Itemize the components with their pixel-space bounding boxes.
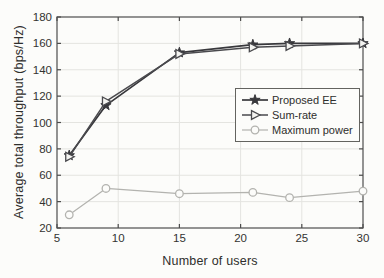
y-tick-label: 100 — [33, 117, 52, 129]
legend-item: Proposed EE — [241, 93, 353, 107]
x-tick-label: 20 — [234, 232, 247, 244]
circle-marker-icon — [249, 189, 257, 197]
triangle-right-marker-icon — [252, 111, 261, 120]
circle-marker-icon — [65, 211, 73, 219]
star-marker-icon — [250, 95, 260, 105]
x-tick-label: 10 — [112, 232, 125, 244]
y-tick-label: 60 — [39, 169, 52, 181]
x-tick-label: 30 — [357, 232, 370, 244]
x-tick-label: 15 — [173, 232, 186, 244]
y-tick-label: 40 — [39, 196, 52, 208]
legend-item: Maximum power — [241, 123, 353, 137]
legend-marker-sample — [241, 123, 269, 137]
circle-marker-icon — [176, 190, 184, 198]
y-tick-label: 140 — [33, 64, 52, 76]
legend-marker-sample — [241, 108, 269, 122]
y-tick-label: 120 — [33, 90, 52, 102]
x-tick-label: 25 — [295, 232, 308, 244]
throughput-chart: 5101520253020406080100120140160180 Avera… — [0, 0, 384, 278]
circle-marker-icon — [102, 185, 110, 193]
y-tick-label: 160 — [33, 37, 52, 49]
x-tick-label: 5 — [54, 232, 60, 244]
circle-marker-icon — [251, 126, 259, 134]
circle-marker-icon — [286, 194, 294, 202]
legend-item-label: Proposed EE — [272, 93, 337, 107]
y-axis-label: Average total throughput (bps/Hz) — [12, 7, 26, 237]
y-tick-label: 80 — [39, 143, 52, 155]
legend-item-label: Maximum power — [272, 123, 353, 137]
y-tick-label: 20 — [39, 222, 52, 234]
legend-marker-sample — [241, 93, 269, 107]
legend: Proposed EESum-rateMaximum power — [235, 88, 360, 142]
x-axis-label: Number of users — [57, 254, 363, 268]
legend-item: Sum-rate — [241, 108, 353, 122]
circle-marker-icon — [359, 187, 367, 195]
legend-item-label: Sum-rate — [272, 108, 317, 122]
y-tick-label: 180 — [33, 11, 52, 23]
